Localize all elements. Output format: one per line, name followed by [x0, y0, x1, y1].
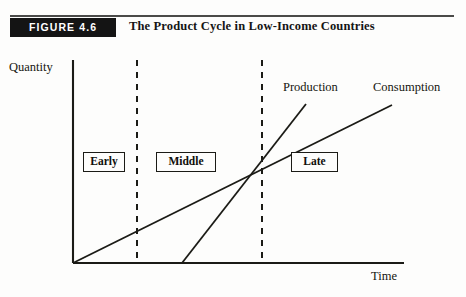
consumption-series-line [73, 105, 392, 263]
phase-label-middle: Middle [156, 152, 216, 172]
phase-label-early: Early [83, 152, 125, 172]
production-series-line [182, 104, 306, 263]
figure-container: FIGURE 4.6 The Product Cycle in Low-Inco… [0, 0, 466, 297]
phase-label-late: Late [291, 152, 338, 172]
x-axis-label: Time [371, 269, 397, 284]
product-cycle-plot [0, 0, 466, 297]
series-label-consumption: Consumption [373, 80, 440, 95]
series-label-production: Production [283, 80, 338, 95]
y-axis-label: Quantity [9, 60, 53, 75]
